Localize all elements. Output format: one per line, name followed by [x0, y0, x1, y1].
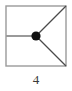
edge-bottom-right [36, 36, 66, 66]
figure-container: 4 [0, 0, 72, 91]
center-node [31, 31, 40, 40]
edge-top-right [36, 6, 66, 36]
figure-caption: 4 [0, 71, 72, 89]
